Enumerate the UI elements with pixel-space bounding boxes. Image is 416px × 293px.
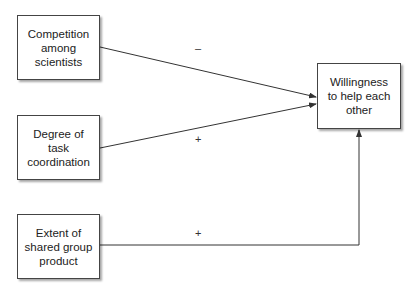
- edge-competition-to-willingness: [100, 47, 316, 97]
- node-willingness: Willingness to help each other: [317, 63, 401, 129]
- edge-shared-product-to-willingness: [100, 130, 359, 245]
- edge-coordination-to-willingness: [100, 104, 316, 148]
- node-shared-product-label: Extent of shared group product: [25, 226, 93, 268]
- node-competition: Competition among scientists: [17, 15, 100, 80]
- node-willingness-label: Willingness to help each other: [328, 75, 391, 117]
- node-coordination: Degree of task coordination: [17, 115, 100, 180]
- node-shared-product: Extent of shared group product: [17, 214, 100, 279]
- node-coordination-label: Degree of task coordination: [22, 127, 95, 169]
- node-competition-label: Competition among scientists: [28, 27, 89, 69]
- edge-sign-competition: –: [195, 43, 201, 54]
- edge-sign-shared-product: +: [195, 228, 201, 239]
- edge-sign-coordination: +: [195, 134, 201, 145]
